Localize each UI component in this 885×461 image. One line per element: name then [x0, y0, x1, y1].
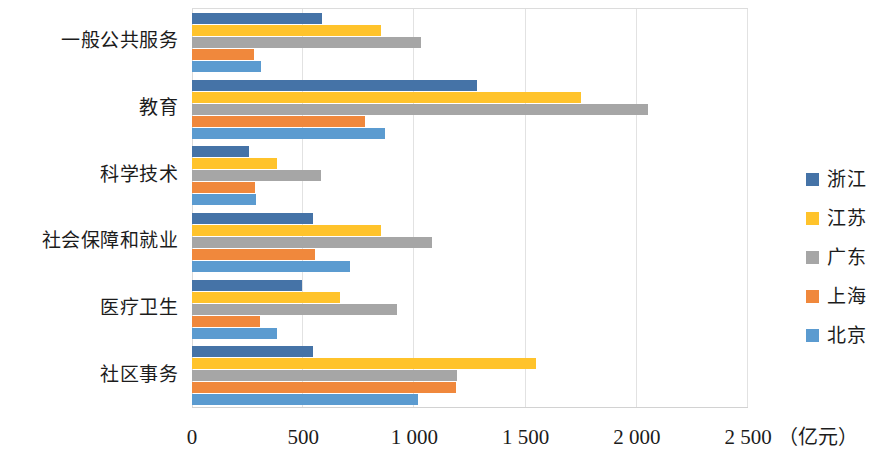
bar-group — [192, 346, 748, 405]
bar — [192, 182, 255, 193]
category-label: 一般公共服务 — [61, 31, 178, 50]
category-label: 社会保障和就业 — [42, 231, 179, 250]
legend-swatch-icon — [806, 290, 819, 303]
bar-group — [192, 13, 748, 72]
bar-group — [192, 80, 748, 139]
bar — [192, 170, 321, 181]
legend-swatch-icon — [806, 329, 819, 342]
bar — [192, 304, 397, 315]
x-tick-label: 1 500 — [502, 424, 549, 450]
bar — [192, 261, 350, 272]
axis-unit-label: （亿元） — [778, 424, 858, 450]
bar — [192, 394, 418, 405]
bar — [192, 128, 385, 139]
legend-label: 广东 — [827, 248, 866, 267]
x-tick-label: 2 500 — [724, 424, 771, 450]
bar — [192, 346, 313, 357]
bar — [192, 249, 315, 260]
bar — [192, 292, 340, 303]
bar — [192, 104, 648, 115]
category-label: 教育 — [139, 98, 178, 117]
bar — [192, 80, 477, 91]
bar — [192, 316, 260, 327]
bar — [192, 382, 456, 393]
bar — [192, 92, 581, 103]
legend-item-1[interactable]: 江苏 — [806, 199, 885, 238]
value-axis: （亿元） 05001 0001 5002 0002 500 — [0, 424, 885, 454]
plot-area — [192, 8, 748, 408]
bar — [192, 61, 261, 72]
legend-swatch-icon — [806, 251, 819, 264]
bar-group — [192, 146, 748, 205]
category-label: 医疗卫生 — [100, 298, 178, 317]
bar — [192, 370, 457, 381]
legend-item-3[interactable]: 上海 — [806, 277, 885, 316]
legend-label: 江苏 — [827, 209, 866, 228]
bar — [192, 328, 277, 339]
bar-group — [192, 213, 748, 272]
x-tick-label: 0 — [187, 424, 198, 450]
legend-item-4[interactable]: 北京 — [806, 316, 885, 355]
bar — [192, 213, 313, 224]
x-tick-label: 500 — [287, 424, 319, 450]
legend-label: 浙江 — [827, 170, 866, 189]
legend-swatch-icon — [806, 173, 819, 186]
legend: 浙江江苏广东上海北京 — [806, 160, 885, 355]
bar-chart: 一般公共服务教育科学技术社会保障和就业医疗卫生社区事务 （亿元） 05001 0… — [0, 0, 885, 461]
x-tick-label: 2 000 — [613, 424, 660, 450]
bar — [192, 37, 421, 48]
bar — [192, 225, 381, 236]
legend-item-2[interactable]: 广东 — [806, 238, 885, 277]
bar — [192, 146, 249, 157]
bar — [192, 116, 365, 127]
category-label: 科学技术 — [100, 165, 178, 184]
bar — [192, 158, 277, 169]
legend-label: 北京 — [827, 326, 866, 345]
bar — [192, 237, 432, 248]
category-axis: 一般公共服务教育科学技术社会保障和就业医疗卫生社区事务 — [0, 8, 186, 408]
bar — [192, 49, 254, 60]
bar — [192, 358, 536, 369]
x-tick-label: 1 000 — [391, 424, 438, 450]
legend-swatch-icon — [806, 212, 819, 225]
bar-group — [192, 280, 748, 339]
bar — [192, 13, 322, 24]
legend-label: 上海 — [827, 287, 866, 306]
bar — [192, 194, 256, 205]
bar — [192, 25, 381, 36]
legend-item-0[interactable]: 浙江 — [806, 160, 885, 199]
bar — [192, 280, 302, 291]
category-label: 社区事务 — [100, 365, 178, 384]
